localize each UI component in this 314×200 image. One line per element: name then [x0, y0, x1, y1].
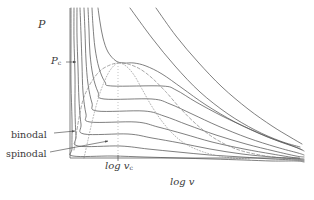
isotherm-critical [98, 8, 302, 150]
critical-volume-base: log v [105, 160, 129, 171]
spinodal-label: spinodal [6, 148, 47, 159]
vdw-isotherm-figure: P Pc log vc log v binodal spinodal [0, 0, 314, 200]
critical-volume-subscript: c [129, 164, 132, 171]
plot-canvas [0, 0, 314, 200]
critical-pressure-subscript: c [58, 59, 61, 66]
isotherm-sub-2 [88, 8, 304, 155]
isotherm-supercritical-2 [156, 8, 302, 144]
critical-pressure-label: Pc [51, 55, 61, 66]
log-volume-axis-label: log v [170, 176, 194, 187]
critical-volume-tick-label: log vc [105, 160, 133, 171]
isotherm-sub-1 [92, 8, 304, 151]
binodal-label: binodal [11, 129, 47, 140]
isotherm-sub-7 [70, 8, 304, 162]
pressure-axis-label: P [38, 18, 45, 31]
isotherm-sub-3 [84, 8, 304, 157]
critical-pressure-base: P [51, 55, 58, 66]
isotherm-sub-4 [80, 8, 304, 159]
